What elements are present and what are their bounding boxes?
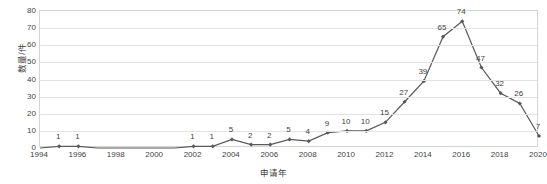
series-line (40, 21, 539, 148)
data-point-marker (76, 144, 80, 148)
x-tick-label: 2000 (145, 150, 163, 159)
data-point-marker (307, 139, 311, 143)
x-tick-label: 2020 (529, 150, 547, 159)
y-tick-label: 30 (27, 91, 36, 100)
x-tick-label: 2014 (414, 150, 432, 159)
y-tick-label: 20 (27, 108, 36, 117)
gridline (40, 62, 537, 63)
x-tick-label: 2008 (299, 150, 317, 159)
y-tick-label: 10 (27, 125, 36, 134)
x-tick-label: 2006 (260, 150, 278, 159)
x-tick-label: 1998 (107, 150, 125, 159)
gridline (40, 28, 537, 29)
data-point-marker (230, 137, 234, 141)
y-tick-label: 60 (27, 40, 36, 49)
gridline (40, 114, 537, 115)
data-point-marker (268, 142, 272, 146)
x-tick-label: 2010 (337, 150, 355, 159)
x-axis-tick-labels: 1994199619982000200220042006200820102012… (39, 150, 538, 164)
x-tick-label: 2018 (491, 150, 509, 159)
data-point-marker (287, 137, 291, 141)
data-point-marker (191, 144, 195, 148)
y-tick-label: 40 (27, 74, 36, 83)
y-tick-label: 50 (27, 57, 36, 66)
x-axis-title: 申请年 (0, 166, 547, 178)
gridline (40, 45, 537, 46)
data-point-marker (57, 144, 61, 148)
x-tick-label: 2002 (184, 150, 202, 159)
data-point-marker (249, 142, 253, 146)
x-tick-label: 2004 (222, 150, 240, 159)
patent-trend-line-chart: 数量/件 01020304050607080 19941996199820002… (0, 0, 547, 184)
plot-area (39, 10, 538, 147)
y-tick-label: 70 (27, 23, 36, 32)
x-tick-label: 2012 (376, 150, 394, 159)
x-tick-label: 1996 (68, 150, 86, 159)
gridline (40, 131, 537, 132)
y-tick-label: 80 (27, 6, 36, 15)
gridline (40, 80, 537, 81)
x-tick-label: 1994 (30, 150, 48, 159)
x-tick-label: 2016 (452, 150, 470, 159)
data-point-marker (211, 144, 215, 148)
gridline (40, 97, 537, 98)
y-axis-tick-labels: 01020304050607080 (16, 10, 36, 147)
